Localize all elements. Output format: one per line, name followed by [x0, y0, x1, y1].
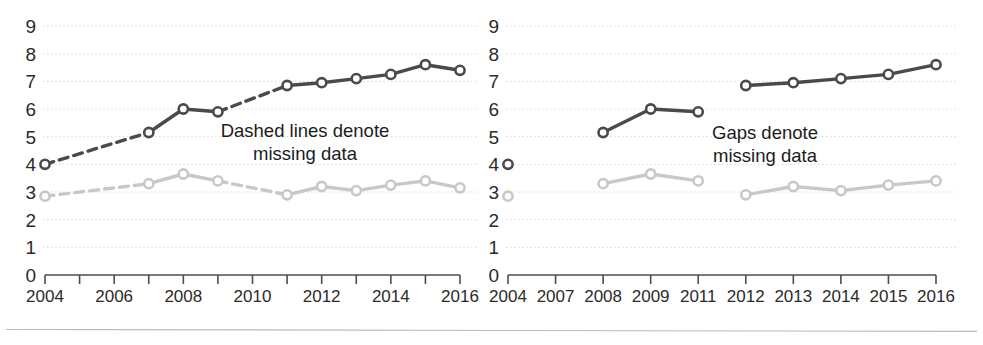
- y-axis-tick-label: 0: [25, 265, 36, 286]
- y-axis-tick-label: 9: [488, 16, 499, 37]
- figure-container: 01234567892004200620082010201220142016Da…: [0, 0, 983, 345]
- annotation-line-1: Dashed lines denote: [221, 120, 390, 141]
- y-axis-tick-label: 8: [488, 44, 499, 65]
- x-axis-tick-label: 2015: [870, 287, 908, 306]
- x-axis-tick-label: 2013: [774, 287, 812, 306]
- y-axis-tick-label: 1: [25, 237, 36, 258]
- chart-panel-left: 01234567892004200620082010201220142016Da…: [0, 0, 480, 320]
- y-axis-tick-label: 0: [488, 265, 499, 286]
- x-axis-tick-label: 2012: [303, 287, 341, 306]
- annotation-line-2: missing data: [713, 145, 818, 166]
- y-axis-tick-label: 8: [25, 44, 36, 65]
- y-axis-tick-label: 2: [488, 210, 499, 231]
- y-axis-tick-label: 7: [488, 71, 499, 92]
- annotation-line-1: Gaps denote: [712, 122, 818, 143]
- y-axis-tick-label: 7: [25, 71, 36, 92]
- x-axis-tick-label: 2012: [727, 287, 765, 306]
- y-axis-tick-label: 5: [25, 127, 36, 148]
- chart-panel-right: 0123456789200420072008200920112012201320…: [480, 0, 983, 320]
- y-axis-tick-label: 3: [488, 182, 499, 203]
- x-axis-tick-label: 2016: [917, 287, 955, 306]
- y-axis-tick-label: 4: [488, 154, 499, 175]
- y-axis-tick-label: 6: [25, 99, 36, 120]
- x-axis-tick-label: 2014: [822, 287, 860, 306]
- y-axis-tick-label: 3: [25, 182, 36, 203]
- y-axis-tick-label: 9: [25, 16, 36, 37]
- x-axis-tick-label: 2004: [26, 287, 64, 306]
- line-chart-right-labels: 0123456789200420072008200920112012201320…: [480, 0, 983, 320]
- x-axis-tick-label: 2016: [441, 287, 479, 306]
- annotation-line-2: missing data: [253, 143, 358, 164]
- x-axis-tick-label: 2010: [234, 287, 272, 306]
- x-axis-tick-label: 2011: [680, 287, 717, 306]
- x-axis-tick-label: 2009: [632, 287, 670, 306]
- x-axis-tick-label: 2007: [537, 287, 575, 306]
- x-axis-tick-label: 2006: [95, 287, 133, 306]
- page-divider-rule: [6, 329, 977, 332]
- y-axis-tick-label: 2: [25, 210, 36, 231]
- y-axis-tick-label: 6: [488, 99, 499, 120]
- x-axis-tick-label: 2014: [372, 287, 410, 306]
- y-axis-tick-label: 4: [25, 154, 36, 175]
- y-axis-tick-label: 1: [488, 237, 499, 258]
- y-axis-tick-label: 5: [488, 127, 499, 148]
- line-chart-left-labels: 01234567892004200620082010201220142016Da…: [0, 0, 480, 320]
- x-axis-tick-label: 2008: [164, 287, 202, 306]
- x-axis-tick-label: 2004: [489, 287, 527, 306]
- x-axis-tick-label: 2008: [584, 287, 622, 306]
